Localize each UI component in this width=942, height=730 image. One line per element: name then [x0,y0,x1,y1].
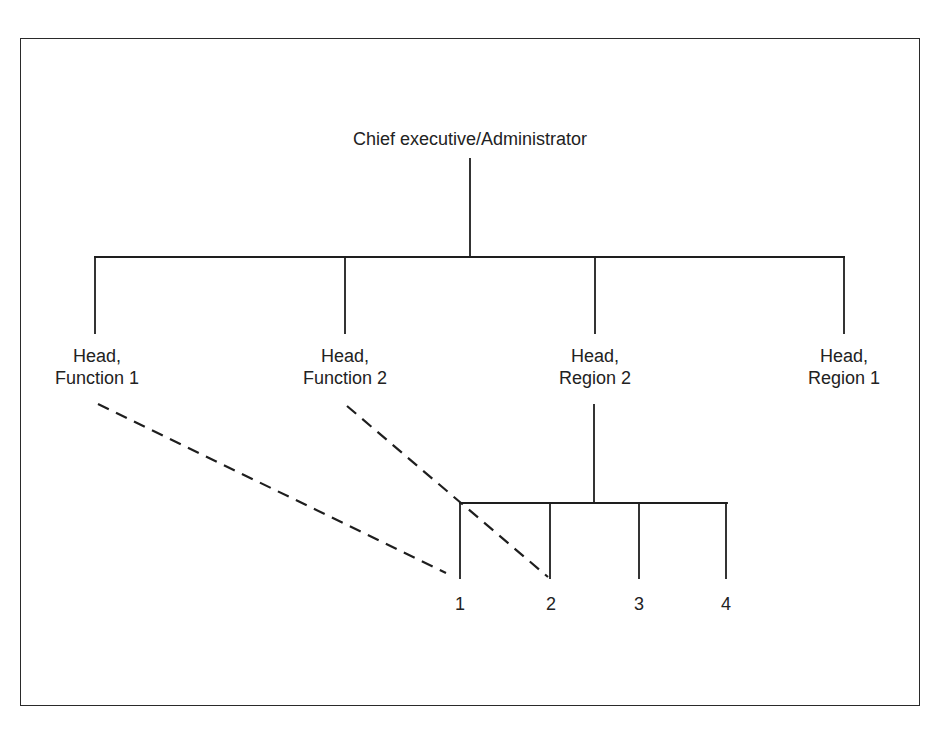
node-line2: Region 2 [559,367,631,389]
unit-3-label: 3 [634,593,644,615]
node-line1: Head, [559,345,631,367]
node-head-function-1: Head, Function 1 [55,345,139,389]
org-chart-lines [0,0,942,730]
dashed-function2-to-unit2 [347,406,548,577]
node-line1: Head, [808,345,880,367]
node-line2: Region 1 [808,367,880,389]
unit-4-label: 4 [721,593,731,615]
node-head-function-2: Head, Function 2 [303,345,387,389]
node-head-region-2: Head, Region 2 [559,345,631,389]
node-head-region-1: Head, Region 1 [808,345,880,389]
dashed-function1-to-unit1 [98,404,446,573]
node-line1: Head, [55,345,139,367]
unit-2-label: 2 [546,593,556,615]
root-node-text: Chief executive/Administrator [353,128,587,150]
node-line2: Function 1 [55,367,139,389]
node-line2: Function 2 [303,367,387,389]
root-node-label: Chief executive/Administrator [353,128,587,150]
node-line1: Head, [303,345,387,367]
unit-1-label: 1 [455,593,465,615]
